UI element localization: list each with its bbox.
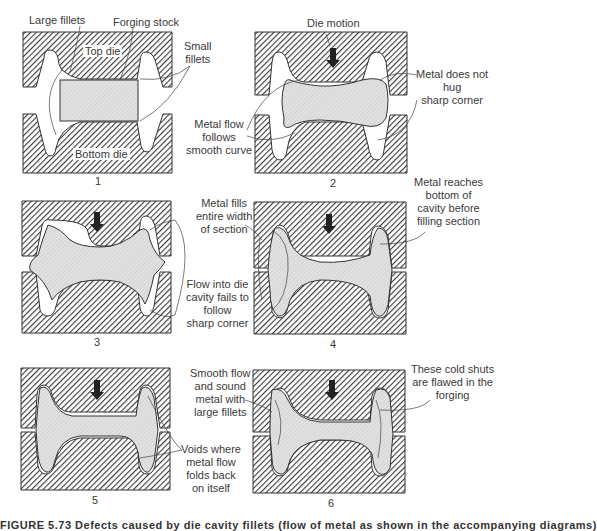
workpiece <box>282 79 388 128</box>
annotation-smooth-flow: Smooth flow and sound metal with large f… <box>190 367 251 419</box>
panel-4 <box>245 202 425 334</box>
panel-number-4: 4 <box>330 338 336 350</box>
annotation-metal-not-hug: Metal does not hug sharp corner <box>416 68 488 107</box>
annotation-metal-flow-smooth: Metal flow follows smooth curve <box>186 118 252 157</box>
panel-6 <box>245 370 430 493</box>
bottom-die-label: Bottom die <box>73 148 130 160</box>
annotation-die-motion: Die motion <box>307 17 360 30</box>
panel-number-3: 3 <box>94 336 100 348</box>
panel-number-1: 1 <box>95 175 101 187</box>
bottom-die <box>255 115 407 173</box>
annotation-flow-fails: Flow into die cavity fails to follow sha… <box>186 278 249 330</box>
annotation-small-fillets: Small fillets <box>184 40 212 66</box>
panel-number-5: 5 <box>92 494 98 506</box>
annotation-metal-reaches-bottom: Metal reaches bottom of cavity before fi… <box>414 176 483 228</box>
panel-3 <box>22 201 185 333</box>
bottom-die <box>23 114 172 173</box>
panel-2 <box>247 32 417 173</box>
panel-5 <box>21 368 182 490</box>
top-die-label: Top die <box>83 45 122 57</box>
figure-caption: FIGURE 5.73 Defects caused by die cavity… <box>0 519 597 531</box>
forging-stock <box>60 80 138 121</box>
annotation-large-fillets: Large fillets <box>29 14 85 27</box>
top-die <box>23 32 172 87</box>
annotation-cold-shuts: These cold shuts are flawed in the forgi… <box>411 363 494 402</box>
annotation-forging-stock: Forging stock <box>113 16 179 29</box>
panel-number-6: 6 <box>328 497 334 509</box>
annotation-metal-fills-width: Metal fills entire width of section <box>196 197 252 236</box>
annotation-voids: Voids where metal flow folds back on its… <box>181 443 241 495</box>
panel-number-2: 2 <box>330 177 336 189</box>
